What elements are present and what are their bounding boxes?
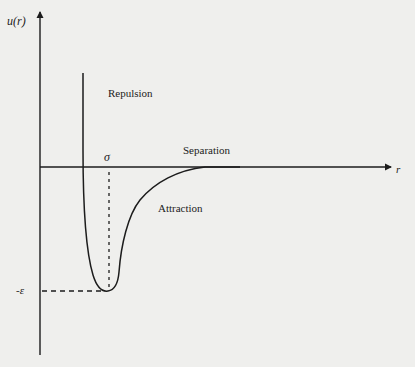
sigma-label: σ	[104, 150, 110, 165]
diagram-canvas	[0, 0, 415, 367]
potential-energy-diagram: u(r) r σ -ε Repulsion Separation Attract…	[0, 0, 415, 367]
separation-label: Separation	[183, 144, 230, 156]
repulsion-label: Repulsion	[108, 87, 153, 99]
attraction-label: Attraction	[158, 202, 203, 214]
potential-curve	[83, 73, 240, 291]
x-axis-label: r	[396, 163, 400, 175]
y-axis-label: u(r)	[7, 14, 26, 29]
epsilon-label: -ε	[16, 284, 24, 296]
